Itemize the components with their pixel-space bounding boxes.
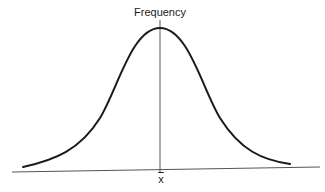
- horizontal-axis: [12, 167, 320, 172]
- mean-x-bar-label: x: [158, 174, 164, 185]
- bell-curve: [23, 28, 290, 167]
- frequency-axis-label: Frequency: [134, 6, 186, 18]
- normal-distribution-diagram: [0, 0, 325, 192]
